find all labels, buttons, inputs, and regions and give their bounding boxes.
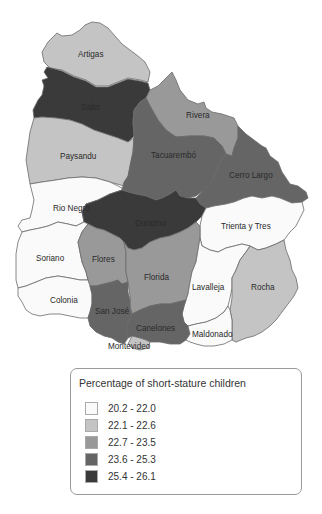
label-rocha: Rocha — [251, 283, 275, 292]
legend-item: 22.7 - 23.5 — [85, 435, 156, 449]
label-tacuarembo: Tacuarembó — [151, 151, 197, 160]
legend-label: 23.6 - 25.3 — [108, 454, 156, 465]
label-maldonado: Maldonado — [192, 330, 233, 339]
legend-item: 20.2 - 22.0 — [85, 401, 156, 415]
label-durazno: Durazno — [135, 219, 166, 228]
legend-item: 22.1 - 22.6 — [85, 418, 156, 432]
label-paysandu: Paysandu — [60, 152, 97, 161]
legend-item: 25.4 - 26.1 — [85, 469, 156, 483]
label-colonia: Colonia — [50, 296, 78, 305]
legend-title: Percentage of short-stature children — [79, 377, 246, 389]
legend-label: 25.4 - 26.1 — [108, 471, 156, 482]
legend-swatch — [85, 453, 98, 466]
label-florida: Florida — [144, 273, 169, 282]
legend-label: 22.1 - 22.6 — [108, 420, 156, 431]
map-legend: Percentage of short-stature children 20.… — [70, 368, 302, 495]
label-salto: Salto — [81, 103, 100, 112]
legend-swatch — [85, 470, 98, 483]
label-canelones: Canelones — [136, 324, 175, 333]
legend-label: 20.2 - 22.0 — [108, 403, 156, 414]
legend-item: 23.6 - 25.3 — [85, 452, 156, 466]
label-soriano: Soriano — [36, 254, 65, 263]
label-artigas: Artigas — [78, 50, 103, 59]
label-lavalleja: Lavalleja — [192, 283, 225, 292]
label-flores: Flores — [92, 255, 115, 264]
legend-swatch — [85, 402, 98, 415]
label-san-jose: San José — [95, 307, 130, 316]
label-cerro-largo: Cerro Largo — [229, 171, 273, 180]
label-treinta-y-tres: Trienta y Tres — [221, 222, 271, 231]
label-rio-negro: Rio Negro — [53, 204, 90, 213]
legend-label: 22.7 - 23.5 — [108, 437, 156, 448]
legend-swatch — [85, 436, 98, 449]
legend-swatch — [85, 419, 98, 432]
label-montevideo: Montevideo — [108, 342, 151, 351]
label-rivera: Rivera — [186, 111, 210, 120]
uruguay-choropleth-map: Artigas Salto Rivera Paysandu Tacuarembó… — [0, 0, 322, 360]
